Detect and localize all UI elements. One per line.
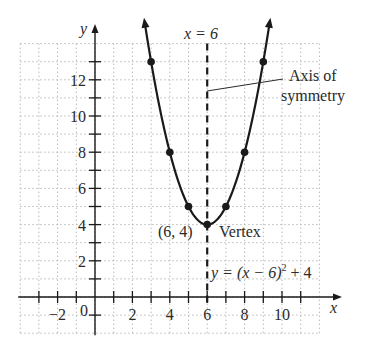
data-point xyxy=(185,203,193,211)
x-tick-label: 10 xyxy=(274,306,290,323)
data-point xyxy=(241,148,249,156)
x-tick-label: 2 xyxy=(128,306,136,323)
y-tick-label: 6 xyxy=(78,180,86,197)
vertex-label: Vertex xyxy=(219,223,261,240)
grid xyxy=(20,44,319,334)
x-tick-label: 6 xyxy=(203,306,211,323)
axis-line-label: x = 6 xyxy=(183,25,218,42)
y-axis-label: y xyxy=(78,20,88,38)
x-axis-label: x xyxy=(329,299,337,316)
x-tick-label: 8 xyxy=(241,306,249,323)
axis-callout-line1: Axis of xyxy=(289,67,337,84)
y-tick-label: 10 xyxy=(70,108,86,125)
data-point xyxy=(203,221,211,229)
data-point xyxy=(147,58,155,66)
x-tick-label: 4 xyxy=(166,306,174,323)
y-axis-arrow-icon xyxy=(92,24,99,33)
data-point xyxy=(166,148,174,156)
curve-arrow-icon xyxy=(265,18,273,28)
axis-callout-line2: symmetry xyxy=(281,87,345,105)
y-tick-label: 8 xyxy=(78,144,86,161)
y-tick-label: 2 xyxy=(78,253,86,270)
data-point xyxy=(222,203,230,211)
data-point xyxy=(260,58,268,66)
origin-label: 0 xyxy=(80,302,88,319)
parabola-chart: −224681024681012 x = 6 Axis of symmetry … xyxy=(0,0,370,347)
x-tick-label: −2 xyxy=(49,306,66,323)
curve-arrow-icon xyxy=(142,18,150,28)
vertex-coordinate-label: (6, 4) xyxy=(158,223,193,241)
y-tick-label: 12 xyxy=(70,72,86,89)
y-tick-label: 4 xyxy=(78,217,86,234)
equation-label: y = (x − 6)2 + 4 xyxy=(209,262,311,282)
